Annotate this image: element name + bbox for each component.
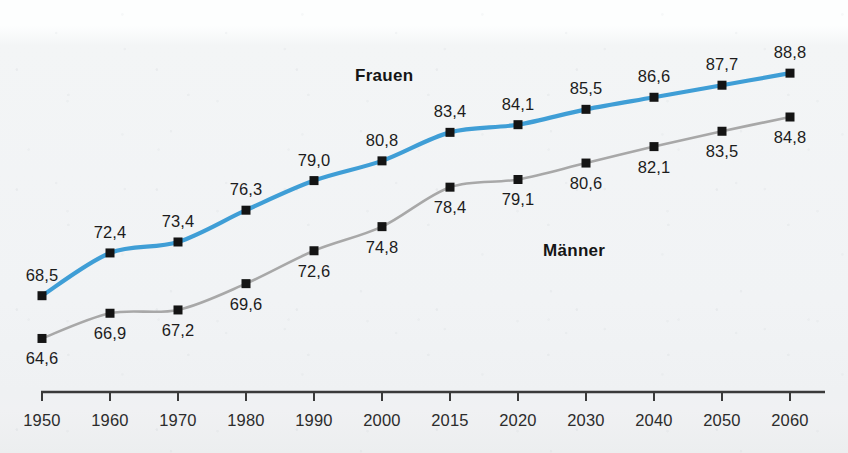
data-point-label: 72,6 [298, 262, 331, 281]
data-point-label: 64,6 [26, 349, 59, 368]
data-point-marker [650, 93, 659, 102]
data-point-marker [106, 248, 115, 257]
data-point-marker [242, 206, 251, 215]
data-point-label: 87,7 [706, 55, 739, 74]
series-line-frauen [42, 73, 790, 296]
x-axis-tick-label: 2030 [567, 411, 605, 430]
data-point-marker [310, 176, 319, 185]
data-point-label: 84,8 [774, 128, 807, 147]
data-point-marker [38, 334, 47, 343]
x-axis-tick-label: 2015 [431, 411, 469, 430]
data-point-label: 84,1 [502, 95, 535, 114]
data-point-label: 88,8 [774, 43, 807, 62]
data-point-marker [582, 105, 591, 114]
data-point-marker [650, 142, 659, 151]
data-point-label: 76,3 [230, 180, 263, 199]
data-point-marker [718, 81, 727, 90]
series-line-männer [42, 117, 790, 338]
series-lines-group [42, 73, 790, 338]
data-point-marker [514, 175, 523, 184]
series-annotation-männer: Männer [543, 241, 605, 261]
data-point-marker [242, 279, 251, 288]
data-point-marker [786, 69, 795, 78]
data-point-label: 66,9 [94, 324, 127, 343]
data-point-marker [718, 127, 727, 136]
data-point-label: 68,5 [26, 266, 59, 285]
x-axis-tick-label: 2060 [771, 411, 809, 430]
data-point-marker [378, 156, 387, 165]
x-axis-group [41, 392, 825, 401]
data-point-marker [38, 291, 47, 300]
data-point-marker [106, 309, 115, 318]
data-point-label: 72,4 [94, 223, 127, 242]
data-point-label: 80,6 [570, 174, 603, 193]
data-point-label: 82,1 [638, 158, 671, 177]
data-point-marker [378, 222, 387, 231]
data-point-label: 83,5 [706, 142, 739, 161]
data-point-marker [786, 113, 795, 122]
data-point-label: 79,1 [502, 190, 535, 209]
data-point-label: 74,8 [366, 238, 399, 257]
data-point-label: 78,4 [434, 198, 467, 217]
data-point-marker [310, 246, 319, 255]
x-axis-tick-label: 2000 [363, 411, 401, 430]
data-point-marker [174, 305, 183, 314]
data-point-label: 69,6 [230, 295, 263, 314]
x-axis-tick-label: 1990 [295, 411, 333, 430]
x-axis-tick-label: 1960 [91, 411, 129, 430]
data-point-label: 67,2 [162, 321, 195, 340]
data-point-label: 85,5 [570, 79, 603, 98]
data-point-marker [514, 120, 523, 129]
data-point-marker [174, 237, 183, 246]
x-axis-tick-label: 1970 [159, 411, 197, 430]
series-annotation-frauen: Frauen [355, 66, 413, 86]
data-point-label: 79,0 [298, 151, 331, 170]
data-point-marker [582, 159, 591, 168]
chart-container: 1950196019701980199020002015202020302040… [0, 0, 848, 453]
data-point-label: 83,4 [434, 102, 467, 121]
data-point-marker [446, 128, 455, 137]
data-point-label: 73,4 [162, 212, 195, 231]
x-axis-tick-label: 2050 [703, 411, 741, 430]
x-axis-tick-label: 2040 [635, 411, 673, 430]
x-axis-tick-label: 1950 [23, 411, 61, 430]
x-axis-tick-label: 2020 [499, 411, 537, 430]
data-point-label: 86,6 [638, 67, 671, 86]
data-point-label: 80,8 [366, 131, 399, 150]
x-axis-tick-label: 1980 [227, 411, 265, 430]
data-point-marker [446, 183, 455, 192]
